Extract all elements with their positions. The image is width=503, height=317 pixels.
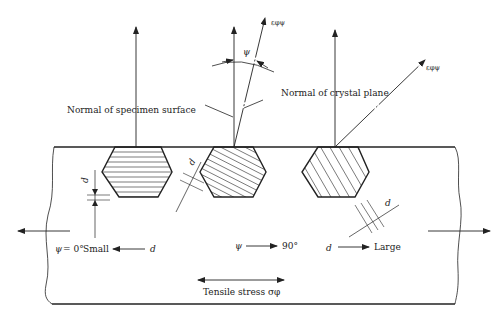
d-arrowhead-1b	[92, 200, 98, 206]
right-break-line	[455, 147, 461, 304]
d-arrowhead-1a	[92, 189, 98, 195]
small-label: Small	[83, 244, 109, 254]
d-label-1: d	[80, 177, 90, 183]
d-extension-3	[361, 203, 378, 230]
d-extension-3	[355, 205, 372, 233]
crystal-plane-line	[212, 151, 292, 290]
psi-zero-psi: ψ	[55, 244, 63, 254]
d-dimension-line-3	[349, 205, 399, 237]
crystal-plane-line	[219, 147, 299, 286]
epsilon-direction-arrow-mid	[234, 18, 265, 147]
crystal-plane-line	[184, 92, 327, 165]
crystal-psi-0	[57, 112, 217, 232]
left-break-line	[45, 147, 54, 304]
crystal-plane-line	[364, 63, 444, 202]
large-label: Large	[374, 242, 401, 252]
crystal-plane-line	[152, 155, 295, 228]
crystal-outline	[302, 147, 369, 197]
crystal-plane-line	[144, 170, 287, 243]
ninety-label: 90°	[282, 241, 298, 251]
epsilon-label-mid: εφψ	[271, 19, 286, 27]
normal-crystal-label: Normal of crystal plane	[281, 88, 389, 98]
d-small-label: d	[150, 244, 156, 254]
d-dimension-line-2	[176, 162, 201, 212]
crystal-plane-line	[240, 135, 320, 274]
epsilon-direction-arrow-right	[335, 60, 425, 147]
normal-specimen-label: Normal of specimen surface	[67, 105, 196, 115]
psi-angle-arc	[212, 62, 274, 72]
crystal-plane-line	[182, 96, 325, 169]
psi-zero-value: = 0°	[63, 244, 84, 254]
tensile-stress-label: Tensile stress σφ	[203, 287, 280, 297]
crystal-plane-line	[378, 55, 458, 194]
d-label-3: d	[385, 198, 391, 208]
crystal-plane-line	[226, 143, 306, 282]
leader-line-crystal	[244, 100, 263, 108]
diagram-canvas: Normal of specimen surface εφψ ψ εφψ Nor…	[0, 0, 503, 317]
crystal-plane-line	[142, 175, 285, 248]
psi-label-mid: ψ	[235, 241, 243, 251]
crystal-plane-line	[154, 150, 297, 223]
leader-line-specimen	[205, 105, 233, 117]
psi-angle-label: ψ	[243, 47, 251, 57]
epsilon-label-right: εφψ	[426, 64, 441, 72]
d-extension-3	[367, 200, 384, 227]
crystal-plane-line	[147, 165, 290, 238]
crystal-plane-line	[132, 194, 275, 267]
d-label-2: d	[186, 157, 198, 167]
d-large-label: d	[326, 243, 332, 253]
crystal-plane-line	[371, 59, 451, 198]
